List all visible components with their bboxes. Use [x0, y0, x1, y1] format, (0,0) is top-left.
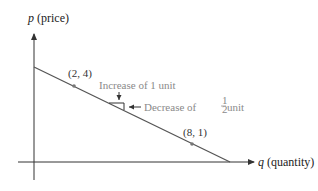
decrease-prefix: Decrease of [144, 101, 197, 113]
y-axis-text: (price) [34, 11, 69, 25]
y-axis-label: p (price) [27, 11, 69, 25]
decrease-label: Decrease of [144, 101, 197, 113]
point-label-8-1: (8, 1) [183, 126, 207, 139]
point-marker-2-4 [72, 84, 76, 88]
increase-label: Increase of 1 unit [99, 79, 176, 91]
y-axis-var: p [27, 11, 34, 25]
x-axis-text: (quantity) [264, 155, 314, 169]
demand-diagram: p (price) q (quantity) (2, 4) (8, 1) Inc… [0, 0, 318, 191]
point-marker-8-1 [190, 142, 194, 146]
decrease-suffix: unit [227, 101, 244, 113]
point-label-2-4: (2, 4) [68, 67, 92, 80]
x-axis-label: q (quantity) [258, 155, 314, 169]
